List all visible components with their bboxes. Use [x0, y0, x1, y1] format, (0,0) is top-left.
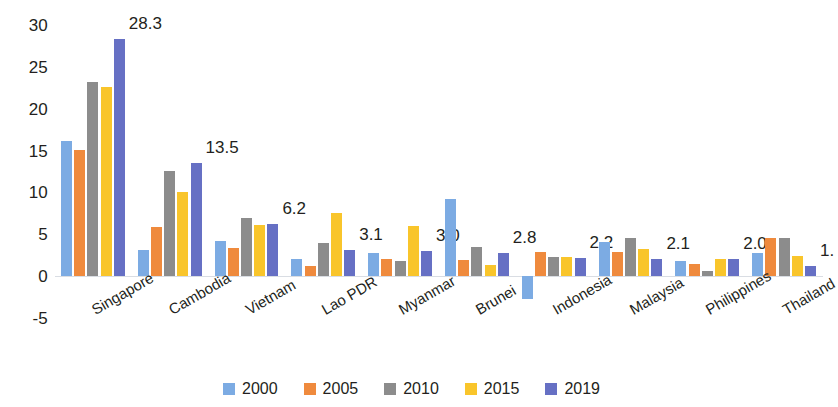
bar-2019: [421, 251, 432, 276]
bar-2005: [151, 227, 162, 276]
plot-area: 28.313.56.23.13.02.82.22.12.01.: [55, 25, 823, 318]
legend-label: 2000: [242, 381, 278, 397]
legend-item-2005[interactable]: 2005: [304, 381, 359, 397]
bar-2010: [87, 82, 98, 276]
bar-2010: [471, 247, 482, 276]
y-axis: 302520151050-5: [0, 25, 48, 318]
bar-2000: [61, 141, 72, 277]
bar-2000: [445, 199, 456, 276]
bar-2010: [318, 243, 329, 276]
y-axis-tick-label: 20: [2, 101, 48, 118]
y-axis-tick-label: 0: [2, 268, 48, 285]
bar-value-label: 1.: [820, 242, 834, 259]
bar-2010: [164, 171, 175, 276]
legend-label: 2005: [323, 381, 359, 397]
bar-group: [675, 25, 739, 318]
legend-label: 2010: [403, 381, 439, 397]
bar-2010: [702, 271, 713, 276]
bar-group: [522, 25, 586, 318]
legend-swatch-icon: [304, 383, 316, 395]
legend-item-2000[interactable]: 2000: [223, 381, 278, 397]
legend-swatch-icon: [384, 383, 396, 395]
bar-2019: [267, 224, 278, 276]
bar-2005: [228, 248, 239, 276]
y-axis-tick-label: 5: [2, 226, 48, 243]
legend-item-2010[interactable]: 2010: [384, 381, 439, 397]
bar-2019: [344, 250, 355, 276]
bar-2015: [331, 213, 342, 277]
y-axis-tick-label: 10: [2, 184, 48, 201]
bar-2019: [651, 259, 662, 277]
bar-2019: [191, 163, 202, 276]
bar-group: [61, 25, 125, 318]
bar-2015: [101, 87, 112, 276]
bar-2019: [114, 39, 125, 276]
bar-2000: [522, 276, 533, 299]
bar-2015: [792, 256, 803, 276]
y-axis-tick-label: 25: [2, 59, 48, 76]
legend-label: 2019: [564, 381, 600, 397]
bar-2005: [458, 260, 469, 276]
bar-2005: [535, 252, 546, 276]
legend-swatch-icon: [465, 383, 477, 395]
legend-swatch-icon: [545, 383, 557, 395]
bar-group: [291, 25, 355, 318]
bar-group: [445, 25, 509, 318]
chart-legend: 20002005201020152019: [0, 381, 823, 397]
legend-item-2019[interactable]: 2019: [545, 381, 600, 397]
legend-swatch-icon: [223, 383, 235, 395]
bar-2015: [408, 226, 419, 276]
bar-2015: [177, 192, 188, 277]
bar-2019: [575, 258, 586, 276]
bar-2015: [638, 249, 649, 277]
y-axis-tick-label: 15: [2, 143, 48, 160]
bar-2019: [728, 259, 739, 276]
bar-group: [368, 25, 432, 318]
bar-2019: [805, 266, 816, 276]
bar-2015: [485, 265, 496, 276]
bar-2000: [291, 259, 302, 276]
bar-2015: [715, 259, 726, 276]
bar-2005: [612, 252, 623, 276]
y-axis-tick-label: 30: [2, 17, 48, 34]
bar-2005: [305, 266, 316, 276]
bar-2005: [74, 150, 85, 276]
bar-2015: [254, 225, 265, 276]
bar-2010: [395, 261, 406, 276]
bar-2010: [548, 257, 559, 276]
bar-2010: [241, 218, 252, 276]
bar-2005: [689, 264, 700, 277]
bar-2010: [779, 238, 790, 276]
bar-2019: [498, 253, 509, 276]
y-axis-tick-label: -5: [2, 310, 48, 327]
bar-2005: [381, 259, 392, 277]
bar-2010: [625, 238, 636, 276]
legend-item-2015[interactable]: 2015: [465, 381, 520, 397]
legend-label: 2015: [484, 381, 520, 397]
bar-2015: [561, 257, 572, 276]
